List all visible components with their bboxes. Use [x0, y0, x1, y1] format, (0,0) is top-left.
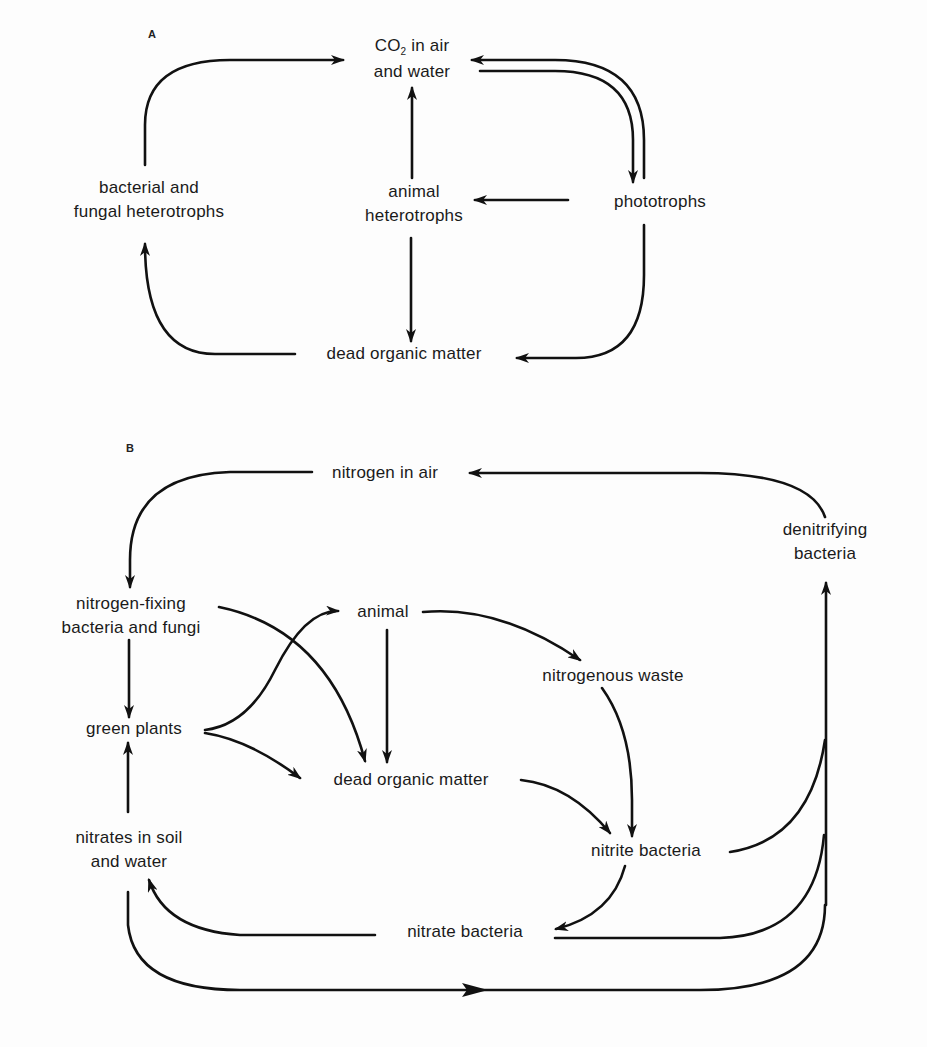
animal-line2: heterotrophs [365, 206, 463, 225]
denitrifying-line2: bacteria [794, 544, 856, 563]
co2-line1: in air [411, 36, 449, 55]
node-dead-organic-matter-b: dead organic matter [334, 768, 489, 792]
node-bacterial-fungal-heterotrophs: bacterial and fungal heterotrophs [74, 176, 224, 224]
co2-prefix: CO [375, 36, 401, 55]
arrow-nitrogen-to-nfixing [130, 472, 312, 587]
arrow-nitrite-to-denitrifying [730, 740, 825, 852]
node-animal: animal [357, 600, 408, 624]
node-nitrogenous-waste: nitrogenous waste [542, 664, 683, 688]
bacterial-line2: fungal heterotrophs [74, 202, 224, 221]
arrow-phototrophs-to-dead [517, 225, 644, 358]
arrow-dead-to-bacterial [145, 244, 295, 354]
node-nitrates-in-soil: nitrates in soil and water [75, 826, 182, 874]
node-green-plants: green plants [86, 717, 182, 741]
arrow-nitrite-to-nitrate [556, 866, 625, 929]
arrow-nitrate-to-nitrates [149, 880, 375, 935]
panel-a-letter: A [148, 28, 156, 40]
node-phototrophs: phototrophs [614, 190, 706, 214]
node-dead-organic-matter-a: dead organic matter [327, 342, 482, 366]
bacterial-line1: bacterial and [99, 178, 199, 197]
nfixing-line2: bacteria and fungi [62, 618, 201, 637]
arrow-phototrophs-to-co2 [472, 60, 644, 178]
node-nitrogen-in-air: nitrogen in air [332, 461, 438, 485]
animal-line1: animal [388, 182, 439, 201]
node-nitrogen-fixing: nitrogen-fixing bacteria and fungi [62, 592, 201, 640]
nitrates-line1: nitrates in soil [75, 828, 182, 847]
node-denitrifying-bacteria: denitrifying bacteria [783, 518, 868, 566]
node-co2: CO2 in air and water [374, 34, 450, 84]
arrow-dead-to-nitrite [521, 780, 610, 833]
nfixing-line1: nitrogen-fixing [76, 594, 186, 613]
arrow-co2-to-phototrophs [480, 71, 633, 182]
node-animal-heterotrophs: animal heterotrophs [365, 180, 463, 228]
co2-subscript: 2 [401, 46, 407, 57]
arrow-nfixing-to-dead [219, 607, 365, 761]
panel-b-letter: B [126, 442, 134, 454]
arrow-bacterial-to-co2 [145, 60, 343, 165]
figure-page: A CO2 in air and water bacterial and fun… [0, 0, 927, 1047]
arrow-greenplants-to-dead [205, 733, 300, 778]
denitrifying-line1: denitrifying [783, 520, 868, 539]
node-nitrite-bacteria: nitrite bacteria [591, 839, 701, 863]
arrow-greenplants-to-animal [205, 611, 338, 730]
co2-line2: and water [374, 62, 450, 81]
node-nitrate-bacteria: nitrate bacteria [407, 920, 523, 944]
arrow-animal-to-waste [423, 611, 580, 660]
arrow-waste-to-nitrite [602, 688, 632, 836]
nitrates-line2: and water [91, 852, 167, 871]
arrow-denitrifying-to-nitrogen [470, 473, 825, 517]
